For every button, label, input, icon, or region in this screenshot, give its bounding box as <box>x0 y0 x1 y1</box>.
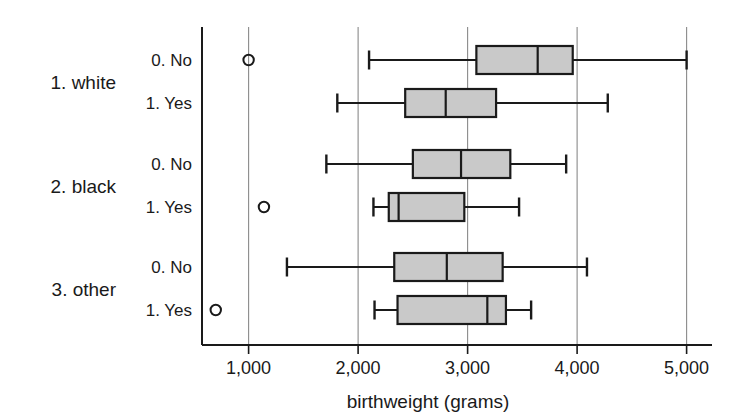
x-tick-label-4000: 4,000 <box>555 358 600 378</box>
x-tick-label-2000: 2,000 <box>336 358 381 378</box>
x-tick-label-3000: 3,000 <box>445 358 490 378</box>
row-label-yes: 1. Yes <box>146 198 192 217</box>
tick-labels-layer: 1,0002,0003,0004,0005,000 <box>226 358 709 378</box>
boxplot-row <box>326 150 566 178</box>
row-label-yes: 1. Yes <box>146 94 192 113</box>
box-rect <box>394 253 502 281</box>
x-axis-title: birthweight (grams) <box>347 391 510 412</box>
tickmarks-layer <box>249 345 687 354</box>
box-rect <box>398 296 506 324</box>
row-label-no: 0. No <box>151 258 192 277</box>
boxplot-row <box>243 46 686 74</box>
boxplot-row <box>259 193 519 221</box>
row-label-no: 0. No <box>151 155 192 174</box>
x-tick-label-1000: 1,000 <box>226 358 271 378</box>
group-labels-layer: 1. white2. black3. other <box>51 72 117 300</box>
boxplot-row <box>337 89 607 117</box>
outlier-point <box>259 202 269 212</box>
row-labels-layer: 0. No1. Yes0. No1. Yes0. No1. Yes <box>146 51 192 320</box>
boxplot-row <box>287 253 587 281</box>
outlier-point <box>211 305 221 315</box>
boxplot-svg: 1,0002,0003,0004,0005,000 0. No1. Yes0. … <box>0 0 746 419</box>
group-label-black: 2. black <box>51 176 117 197</box>
x-tick-label-5000: 5,000 <box>664 358 709 378</box>
boxes-layer <box>211 46 687 324</box>
row-label-no: 0. No <box>151 51 192 70</box>
box-rect <box>476 46 572 74</box>
group-label-other: 3. other <box>52 279 117 300</box>
boxplot-chart: 1,0002,0003,0004,0005,000 0. No1. Yes0. … <box>0 0 746 419</box>
box-rect <box>405 89 496 117</box>
box-rect <box>389 193 465 221</box>
boxplot-row <box>211 296 532 324</box>
group-label-white: 1. white <box>51 72 116 93</box>
row-label-yes: 1. Yes <box>146 301 192 320</box>
